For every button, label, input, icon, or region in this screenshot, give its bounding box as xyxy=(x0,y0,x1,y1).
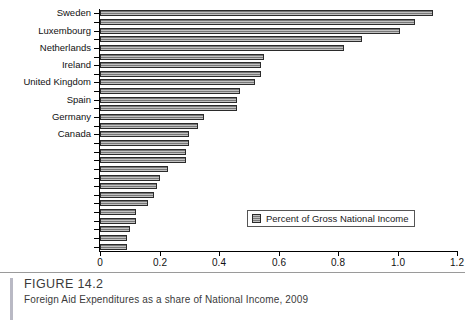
bar-fill xyxy=(100,114,204,120)
bar-fill xyxy=(100,175,160,181)
x-axis-label-0: 0 xyxy=(97,257,103,268)
x-tick xyxy=(279,251,280,256)
bar-poland xyxy=(100,244,127,250)
x-tick xyxy=(219,251,220,256)
bar-fill xyxy=(100,62,261,68)
bar-fill xyxy=(100,209,136,215)
figure-title: Foreign Aid Expenditures as a share of N… xyxy=(24,294,454,305)
bar-netherlands xyxy=(100,45,344,51)
x-tick xyxy=(457,251,458,256)
bar-fill xyxy=(100,71,261,77)
bar-italy xyxy=(100,192,154,198)
y-axis-label-spain: Spain xyxy=(67,95,91,105)
y-axis-label-united-kingdom: United Kingdom xyxy=(23,77,91,87)
bar-hungary xyxy=(100,226,130,232)
bar-canada xyxy=(100,131,189,137)
bar-france xyxy=(100,105,237,111)
bar-fill xyxy=(100,140,189,146)
x-axis-label-0.8: 0.8 xyxy=(331,257,345,268)
bar-fill xyxy=(100,131,189,137)
caption-divider xyxy=(0,272,465,273)
y-axis-label-sweden: Sweden xyxy=(57,8,91,18)
bar-fill xyxy=(100,28,400,34)
bar-portugal xyxy=(100,157,186,163)
bar-czech-republic xyxy=(100,209,136,215)
bar-fill xyxy=(100,192,154,198)
bar-sweden xyxy=(100,10,433,16)
caption-accent-bar xyxy=(10,278,13,320)
bar-korea xyxy=(100,200,148,206)
bar-finland xyxy=(100,71,261,77)
x-tick xyxy=(160,251,161,256)
bar-fill xyxy=(100,200,148,206)
bar-united-kingdom xyxy=(100,79,255,85)
y-axis-label-netherlands: Netherlands xyxy=(40,43,91,53)
x-axis-label-0.4: 0.4 xyxy=(212,257,226,268)
bar-turkey xyxy=(100,218,136,224)
bar-fill xyxy=(100,79,255,85)
legend-swatch-icon xyxy=(252,214,261,223)
y-axis-label-canada: Canada xyxy=(58,129,91,139)
bar-fill xyxy=(100,45,344,51)
bar-norway xyxy=(100,19,415,25)
figure-container: SwedenLuxembourgNetherlandsIrelandUnited… xyxy=(0,0,465,320)
bar-fill xyxy=(100,183,157,189)
bar-greece xyxy=(100,175,160,181)
bar-denmark xyxy=(100,36,362,42)
bar-fill xyxy=(100,88,240,94)
y-axis-label-ireland: Ireland xyxy=(62,60,91,70)
x-tick xyxy=(338,251,339,256)
bar-spain xyxy=(100,97,237,103)
bar-fill xyxy=(100,235,127,241)
bar-chart: SwedenLuxembourgNetherlandsIrelandUnited… xyxy=(0,0,465,268)
figure-number: FIGURE 14.2 xyxy=(24,277,454,291)
bar-united-states xyxy=(100,166,168,172)
x-axis-label-1.2: 1.2 xyxy=(450,257,464,268)
bar-fill xyxy=(100,244,127,250)
chart-legend: Percent of Gross National Income xyxy=(247,210,415,227)
bar-fill xyxy=(100,19,415,25)
x-tick xyxy=(398,251,399,256)
bar-australia xyxy=(100,140,189,146)
bar-ireland xyxy=(100,62,261,68)
x-axis-label-0.2: 0.2 xyxy=(153,257,167,268)
bar-fill xyxy=(100,105,237,111)
x-axis-label-0.6: 0.6 xyxy=(272,257,286,268)
bar-fill xyxy=(100,36,362,42)
bar-fill xyxy=(100,218,136,224)
bar-belgium xyxy=(100,54,264,60)
bar-germany xyxy=(100,114,204,120)
bar-japan xyxy=(100,183,157,189)
bar-fill xyxy=(100,10,433,16)
bar-fill xyxy=(100,166,168,172)
x-axis-line xyxy=(99,251,457,252)
bar-fill xyxy=(100,97,237,103)
bar-new-zealand xyxy=(100,149,186,155)
bar-fill xyxy=(100,226,130,232)
figure-caption: FIGURE 14.2 Foreign Aid Expenditures as … xyxy=(24,277,454,305)
bar-luxembourg xyxy=(100,28,400,34)
y-axis-label-luxembourg: Luxembourg xyxy=(38,26,91,36)
bar-slovak-republic xyxy=(100,235,127,241)
bar-fill xyxy=(100,54,264,60)
bar-fill xyxy=(100,123,198,129)
bar-fill xyxy=(100,157,186,163)
bar-fill xyxy=(100,149,186,155)
bar-austria xyxy=(100,123,198,129)
bar-switzerland xyxy=(100,88,240,94)
x-tick xyxy=(100,251,101,256)
legend-label: Percent of Gross National Income xyxy=(266,213,409,224)
x-axis-label-1.0: 1.0 xyxy=(391,257,405,268)
y-axis-label-germany: Germany xyxy=(52,112,91,122)
